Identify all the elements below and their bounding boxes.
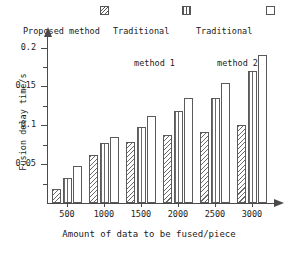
- bar: [63, 178, 72, 203]
- bar-series-container: [0, 0, 288, 256]
- bar: [211, 98, 220, 203]
- bar: [248, 71, 257, 203]
- bar: [237, 125, 246, 203]
- bar: [137, 127, 146, 203]
- bar: [221, 83, 230, 203]
- bar: [52, 189, 61, 203]
- bar: [184, 98, 193, 203]
- plot-area: 0.050.10.150.2 50010001500200025003000 F…: [0, 0, 288, 256]
- bar: [200, 132, 209, 203]
- bar: [147, 116, 156, 203]
- bar: [100, 143, 109, 203]
- bar: [89, 155, 98, 203]
- bar: [258, 55, 267, 203]
- bar-chart: Proposed method Traditional method 1 Tra…: [0, 0, 288, 256]
- bar: [174, 111, 183, 203]
- bar: [73, 166, 82, 203]
- bar: [163, 135, 172, 203]
- bar: [126, 142, 135, 203]
- bar: [110, 137, 119, 203]
